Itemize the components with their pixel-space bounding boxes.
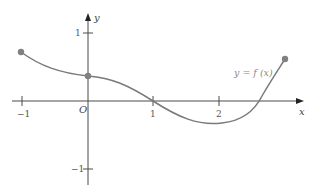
origin-label: O — [79, 104, 87, 115]
function-label: y = f (x) — [233, 67, 273, 78]
y-axis-label: y — [93, 12, 100, 23]
x-axis-arrow-icon — [296, 98, 304, 104]
x-tick-label-neg1: −1 — [17, 109, 30, 119]
y-tick-label-1: 1 — [75, 28, 81, 38]
y-axis-arrow-icon — [85, 13, 91, 21]
y-intercept-point — [85, 73, 91, 79]
y-tick-label-neg1: −1 — [71, 164, 84, 174]
endpoint-left — [18, 49, 24, 55]
x-tick-label-1: 1 — [150, 109, 156, 119]
x-tick-label-2: 2 — [216, 109, 222, 119]
x-axis-label: x — [299, 106, 305, 117]
endpoint-right — [282, 56, 288, 62]
function-graph: −1 1 2 1 −1 O y x y = f (x) — [0, 0, 315, 188]
